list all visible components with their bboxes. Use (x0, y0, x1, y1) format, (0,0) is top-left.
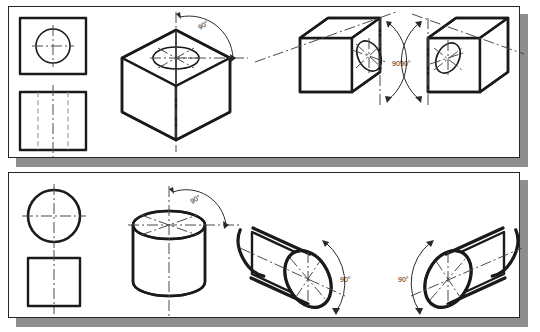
technical-drawing-figure: 90° 90° (0, 0, 540, 332)
cylinder-axis-left-tilt-view: 90° (0, 0, 540, 332)
angle-label-cylinder-3: 90° (398, 276, 409, 283)
